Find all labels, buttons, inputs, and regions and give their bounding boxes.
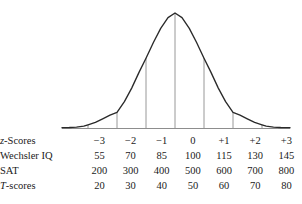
table-cell: 50 <box>177 179 208 194</box>
table-row: T-scores 20 30 40 50 60 70 80 <box>0 179 302 194</box>
table-row: z-Scores −3 −2 −1 0 +1 +2 +3 <box>0 134 302 149</box>
table-cell: 80 <box>271 179 302 194</box>
table-cell: 145 <box>271 149 302 164</box>
normal-distribution-figure: z-Scores −3 −2 −1 0 +1 +2 +3 Wechsler IQ… <box>0 0 302 204</box>
table-cell: +3 <box>271 134 302 149</box>
table-cell: 40 <box>146 179 177 194</box>
table-cell: 30 <box>115 179 146 194</box>
table-cell: 600 <box>208 164 239 179</box>
table-cell: 115 <box>208 149 239 164</box>
table-cell: 130 <box>240 149 271 164</box>
table-cell: −2 <box>115 134 146 149</box>
table-cell: 200 <box>84 164 115 179</box>
table-cell: 100 <box>177 149 208 164</box>
table-cell: 70 <box>115 149 146 164</box>
row-label-z-scores: z-Scores <box>0 134 84 149</box>
table-cell: 700 <box>240 164 271 179</box>
normal-curve-path <box>62 13 290 128</box>
table-cell: 20 <box>84 179 115 194</box>
row-label-plain-part: -Scores <box>4 135 36 146</box>
table-cell: 55 <box>84 149 115 164</box>
table-cell: −1 <box>146 134 177 149</box>
table-cell: 400 <box>146 164 177 179</box>
table-cell: 0 <box>177 134 208 149</box>
table-cell: 500 <box>177 164 208 179</box>
row-label-plain-part: Wechsler IQ <box>0 150 53 161</box>
table-cell: 800 <box>271 164 302 179</box>
row-label-plain-part: -scores <box>6 180 36 191</box>
table-body: z-Scores −3 −2 −1 0 +1 +2 +3 Wechsler IQ… <box>0 134 302 194</box>
table-cell: −3 <box>84 134 115 149</box>
table-cell: 60 <box>208 179 239 194</box>
table-row: Wechsler IQ 55 70 85 100 115 130 145 <box>0 149 302 164</box>
row-label-sat: SAT <box>0 164 84 179</box>
gridlines <box>88 13 262 128</box>
table-cell: 300 <box>115 164 146 179</box>
table-cell: 85 <box>146 149 177 164</box>
scale-conversion-table: z-Scores −3 −2 −1 0 +1 +2 +3 Wechsler IQ… <box>0 134 302 194</box>
row-label-wechsler-iq: Wechsler IQ <box>0 149 84 164</box>
row-label-t-scores: T-scores <box>0 179 84 194</box>
table-cell: +1 <box>208 134 239 149</box>
table-cell: +2 <box>240 134 271 149</box>
table-cell: 70 <box>240 179 271 194</box>
table-row: SAT 200 300 400 500 600 700 800 <box>0 164 302 179</box>
row-label-plain-part: SAT <box>0 165 19 176</box>
bell-curve-chart <box>0 0 302 136</box>
